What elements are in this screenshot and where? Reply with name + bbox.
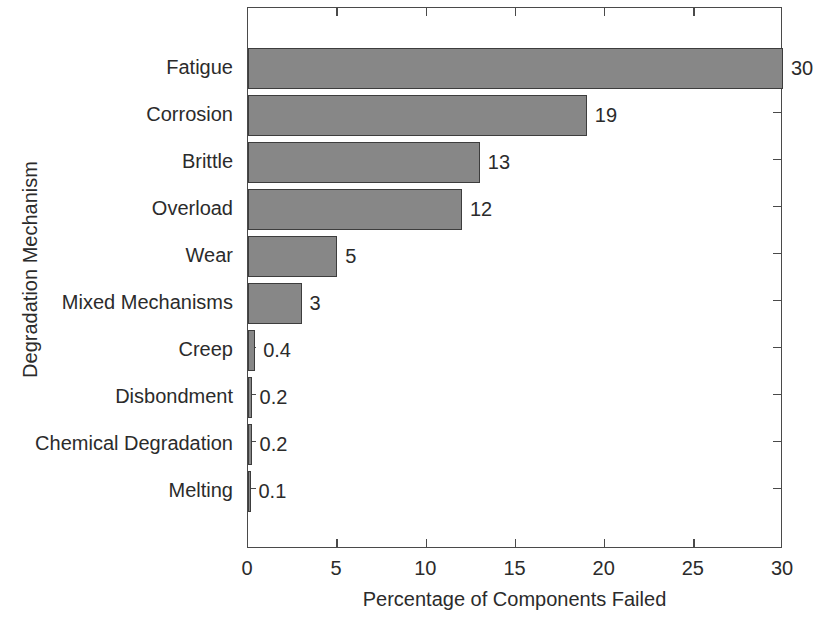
x-axis-tick xyxy=(693,539,695,547)
y-axis-tick-label: Brittle xyxy=(182,138,233,185)
bar xyxy=(248,142,480,183)
x-axis-tick-label: 5 xyxy=(331,557,342,580)
x-axis-tick-label: 15 xyxy=(503,557,525,580)
x-axis-tick-label: 0 xyxy=(241,557,252,580)
y-axis-tick-label: Wear xyxy=(186,232,233,279)
y-axis-tick-label: Creep xyxy=(179,326,233,373)
x-axis-tick xyxy=(426,539,428,547)
x-axis-tick xyxy=(604,539,606,547)
y-axis-tick xyxy=(773,441,781,443)
bar-chart: Degradation Mechanism FatigueCorrosionBr… xyxy=(0,0,817,618)
plot-area xyxy=(247,7,782,548)
y-axis-tick xyxy=(773,112,781,114)
y-axis-tick-label: Corrosion xyxy=(146,91,233,138)
x-axis-title: Percentage of Components Failed xyxy=(247,588,782,611)
bar xyxy=(248,471,251,512)
x-axis-tick xyxy=(336,8,338,16)
y-axis-tick xyxy=(773,159,781,161)
y-axis-tick xyxy=(773,206,781,208)
y-axis-tick-labels: FatigueCorrosionBrittleOverloadWearMixed… xyxy=(0,44,241,514)
x-axis-tick xyxy=(515,539,517,547)
x-axis-tick xyxy=(515,8,517,16)
x-axis-tick-labels: 051015202530 xyxy=(0,557,817,585)
bar xyxy=(248,283,302,324)
y-axis-tick xyxy=(773,394,781,396)
y-axis-tick-label: Fatigue xyxy=(166,44,233,91)
x-axis-tick xyxy=(426,8,428,16)
bar xyxy=(248,236,337,277)
y-axis-tick xyxy=(773,347,781,349)
bar xyxy=(248,48,783,89)
x-axis-tick-label: 20 xyxy=(593,557,615,580)
x-axis-tick-label: 25 xyxy=(682,557,704,580)
y-axis-tick-label: Mixed Mechanisms xyxy=(62,279,233,326)
y-axis-tick-label: Overload xyxy=(152,185,233,232)
bar xyxy=(248,424,252,465)
y-axis-tick xyxy=(773,253,781,255)
y-axis-tick xyxy=(773,300,781,302)
y-axis-tick-label: Melting xyxy=(169,467,233,514)
bar xyxy=(248,189,462,230)
x-axis-tick xyxy=(336,539,338,547)
x-axis-tick xyxy=(604,8,606,16)
bar xyxy=(248,377,252,418)
y-axis-tick xyxy=(773,488,781,490)
bar-value-label: 30 xyxy=(791,58,813,78)
y-axis-tick-label: Disbondment xyxy=(115,373,233,420)
y-axis-tick-label: Chemical Degradation xyxy=(35,420,233,467)
bar xyxy=(248,95,587,136)
bar xyxy=(248,330,255,371)
x-axis-tick xyxy=(693,8,695,16)
x-axis-tick-label: 10 xyxy=(414,557,436,580)
x-axis-tick-label: 30 xyxy=(771,557,793,580)
